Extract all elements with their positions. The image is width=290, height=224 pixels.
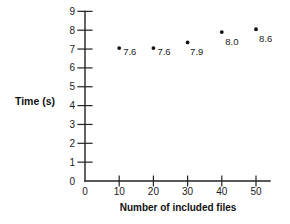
- y-tick-label: 4: [69, 100, 75, 111]
- y-tick-label: 7: [69, 44, 75, 55]
- data-point: [152, 46, 156, 50]
- point-label: 8.6: [259, 33, 272, 44]
- point-label: 7.6: [157, 46, 170, 57]
- y-tick-label: 6: [69, 62, 75, 73]
- y-tick-label: 5: [69, 81, 75, 92]
- data-point: [117, 46, 121, 50]
- point-label: 7.6: [123, 46, 136, 57]
- y-axis-title: Time (s): [6, 95, 64, 107]
- y-tick-label: 0: [69, 176, 75, 187]
- x-tick-label: 30: [182, 186, 194, 197]
- data-point: [254, 27, 258, 31]
- y-tick-label: 8: [69, 25, 75, 36]
- x-tick-label: 40: [216, 186, 228, 197]
- point-label: 7.9: [190, 46, 203, 57]
- x-tick-label: 50: [250, 186, 262, 197]
- x-tick-label: 0: [82, 186, 88, 197]
- data-point: [186, 41, 190, 45]
- y-tick-label: 3: [69, 119, 75, 130]
- y-tick-label: 9: [69, 6, 75, 17]
- y-tick-label: 2: [69, 138, 75, 149]
- x-tick-label: 10: [114, 186, 126, 197]
- chart-canvas: 0123456789010203040507.67.67.98.08.6: [0, 0, 290, 224]
- scatter-chart: 0123456789010203040507.67.67.98.08.6 Tim…: [0, 0, 290, 224]
- y-tick-label: 1: [69, 157, 75, 168]
- x-tick-label: 20: [148, 186, 160, 197]
- data-point: [220, 30, 224, 34]
- x-axis-title: Number of included files: [88, 202, 268, 214]
- point-label: 8.0: [225, 36, 238, 47]
